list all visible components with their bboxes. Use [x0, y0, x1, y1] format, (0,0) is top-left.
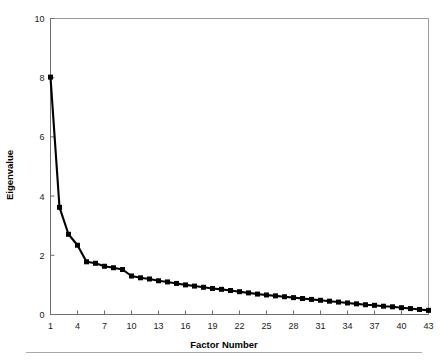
data-point-marker [282, 294, 287, 299]
x-tick-label: 16 [180, 321, 190, 331]
eigenvalue-series [48, 75, 431, 313]
x-tick-label: 31 [315, 321, 325, 331]
data-point-marker [309, 297, 314, 302]
data-point-marker [273, 293, 278, 298]
y-tick-label: 4 [39, 192, 44, 202]
y-tick-labels: 0246810 [34, 14, 44, 320]
data-point-marker [372, 303, 377, 308]
data-point-marker [210, 286, 215, 291]
axis-ticks [51, 19, 429, 315]
data-point-marker [129, 274, 134, 279]
data-point-marker [426, 308, 431, 313]
y-tick-label: 6 [39, 132, 44, 142]
data-point-marker [192, 284, 197, 289]
data-point-marker [120, 267, 125, 272]
x-tick-label: 25 [261, 321, 271, 331]
data-point-marker [111, 265, 116, 270]
y-axis-title: Eigenvalue [4, 150, 15, 200]
data-point-marker [75, 243, 80, 248]
x-tick-label: 7 [102, 321, 107, 331]
data-point-marker [228, 288, 233, 293]
y-tick-label: 2 [39, 251, 44, 261]
data-point-marker [147, 276, 152, 281]
series-line [51, 77, 429, 310]
y-tick-label: 0 [39, 310, 44, 320]
data-point-marker [48, 75, 53, 80]
data-point-marker [408, 306, 413, 311]
x-tick-label: 10 [126, 321, 136, 331]
data-point-marker [381, 304, 386, 309]
data-point-marker [201, 285, 206, 290]
data-point-marker [102, 264, 107, 269]
data-point-marker [138, 275, 143, 280]
data-point-marker [255, 292, 260, 297]
scree-plot-svg: 147101316192225283134374043 0246810 Fact… [0, 0, 448, 363]
data-point-marker [219, 287, 224, 292]
x-tick-label: 40 [396, 321, 406, 331]
data-point-marker [237, 289, 242, 294]
x-tick-label: 13 [153, 321, 163, 331]
x-tick-label: 1 [48, 321, 53, 331]
data-point-marker [66, 232, 71, 237]
data-point-marker [165, 279, 170, 284]
data-point-marker [291, 295, 296, 300]
x-tick-label: 28 [288, 321, 298, 331]
y-tick-label: 8 [39, 73, 44, 83]
data-point-marker [156, 278, 161, 283]
x-tick-labels: 147101316192225283134374043 [48, 321, 434, 331]
data-point-marker [264, 292, 269, 297]
data-point-marker [84, 259, 89, 264]
data-point-marker [363, 302, 368, 307]
data-point-marker [318, 298, 323, 303]
data-point-marker [399, 305, 404, 310]
x-tick-label: 43 [423, 321, 433, 331]
data-point-marker [57, 205, 62, 210]
scree-plot-figure: 147101316192225283134374043 0246810 Fact… [0, 0, 448, 363]
data-point-marker [390, 304, 395, 309]
x-tick-label: 37 [369, 321, 379, 331]
data-point-marker [417, 307, 422, 312]
x-tick-label: 34 [342, 321, 352, 331]
x-tick-label: 4 [75, 321, 80, 331]
data-point-marker [336, 300, 341, 305]
x-tick-label: 22 [234, 321, 244, 331]
footer-divider [26, 352, 422, 353]
data-point-marker [183, 282, 188, 287]
x-tick-label: 19 [207, 321, 217, 331]
data-point-marker [354, 301, 359, 306]
data-point-marker [300, 296, 305, 301]
data-point-marker [246, 290, 251, 295]
x-axis-title: Factor Number [190, 339, 258, 350]
y-tick-label: 10 [34, 14, 44, 24]
plot-frame [51, 19, 429, 315]
data-point-marker [93, 261, 98, 266]
data-point-marker [174, 281, 179, 286]
data-point-marker [327, 299, 332, 304]
data-point-marker [345, 300, 350, 305]
